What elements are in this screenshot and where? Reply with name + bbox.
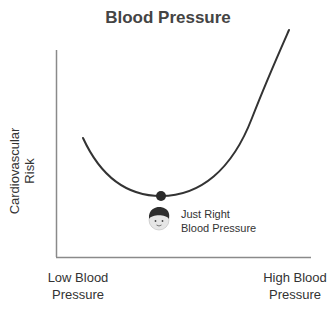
x-tick-low-line1: Low Blood	[38, 269, 118, 286]
x-tick-low: Low Blood Pressure	[38, 269, 118, 303]
annotation-line2: Blood Pressure	[181, 221, 256, 235]
annotation-just-right: Just Right Blood Pressure	[181, 207, 256, 235]
optimal-point-marker	[156, 191, 166, 201]
x-tick-high-line1: High Blood	[254, 269, 336, 286]
x-tick-high: High Blood Pressure	[254, 269, 336, 303]
x-tick-low-line2: Pressure	[38, 286, 118, 303]
smiling-face-icon	[149, 207, 169, 230]
x-tick-high-line2: Pressure	[254, 286, 336, 303]
annotation-line1: Just Right	[181, 207, 256, 221]
risk-curve	[83, 30, 289, 196]
